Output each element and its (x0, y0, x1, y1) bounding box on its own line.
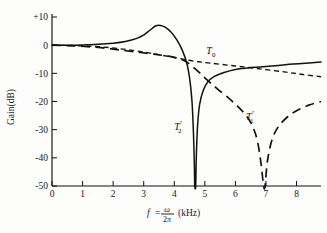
y-tick-label: 0 (43, 41, 48, 51)
x-tick-label: 7 (264, 189, 269, 199)
x-axis-title-equals: = (155, 208, 160, 218)
y-axis-title: Gain(dB) (6, 89, 17, 125)
x-axis-title-numerator: ω (164, 205, 170, 214)
x-axis-title-denominator: 2π (163, 215, 171, 224)
y-tick-label: +10 (33, 12, 48, 22)
x-tick-label: 4 (172, 189, 177, 199)
x-axis-title-unit: (kHz) (178, 208, 200, 219)
x-tick-label: 2 (111, 189, 116, 199)
x-tick-label: 8 (294, 189, 299, 199)
x-tick-label: 3 (141, 189, 146, 199)
x-tick-label: 0 (50, 189, 55, 199)
chart-canvas: 012345678 +100-10-20-30-40-50 T0 T′2 T′1… (0, 0, 327, 233)
y-tick-label: -20 (35, 97, 48, 107)
y-tick-label: -50 (35, 181, 48, 191)
chart-figure: 012345678 +100-10-20-30-40-50 T0 T′2 T′1… (0, 0, 327, 233)
x-tick-label: 1 (80, 189, 85, 199)
x-tick-label: 5 (202, 189, 207, 199)
y-tick-label: -10 (35, 69, 48, 79)
y-tick-label: -40 (35, 153, 48, 163)
x-tick-label: 6 (233, 189, 238, 199)
y-tick-label: -30 (35, 125, 48, 135)
